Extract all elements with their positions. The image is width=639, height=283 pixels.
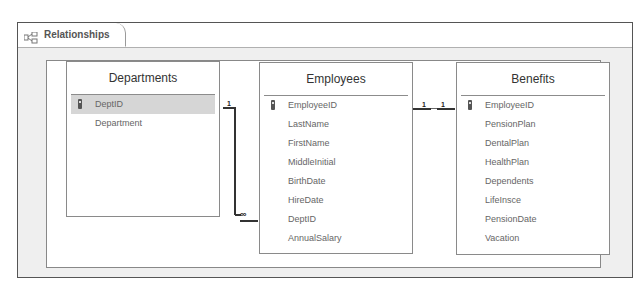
cardinality-one-label: 1 xyxy=(227,100,231,107)
diagram-area: Departments DeptID Department Employees … xyxy=(46,60,601,268)
table-benefits[interactable]: Benefits EmployeeID PensionPlan DentalPl… xyxy=(456,62,610,255)
relationships-canvas[interactable]: Departments DeptID Department Employees … xyxy=(18,48,632,277)
relationship-line xyxy=(234,107,236,215)
field-employeeid[interactable]: EmployeeID xyxy=(260,96,412,115)
field-label: PensionPlan xyxy=(485,119,536,129)
field-firstname[interactable]: FirstName xyxy=(260,134,412,153)
cardinality-one-label: 1 xyxy=(422,101,426,108)
field-dependents[interactable]: Dependents xyxy=(457,172,609,191)
field-label: Department xyxy=(95,118,142,128)
document-tab-bar: Relationships xyxy=(18,23,632,48)
field-label: HireDate xyxy=(288,195,324,205)
field-label: Vacation xyxy=(485,233,519,243)
relationship-line xyxy=(413,108,431,110)
relationships-icon xyxy=(24,29,38,41)
field-employeeid[interactable]: EmployeeID xyxy=(457,96,609,115)
table-employees[interactable]: Employees EmployeeID LastName FirstName … xyxy=(259,62,413,254)
field-label: EmployeeID xyxy=(288,100,337,110)
field-label: HealthPlan xyxy=(485,157,529,167)
field-label: DeptID xyxy=(288,214,316,224)
field-label: MiddleInitial xyxy=(288,157,336,167)
field-label: PensionDate xyxy=(485,214,537,224)
field-label: Dependents xyxy=(485,176,534,186)
table-departments[interactable]: Departments DeptID Department xyxy=(66,61,220,217)
field-label: BirthDate xyxy=(288,176,326,186)
field-hiredate[interactable]: HireDate xyxy=(260,191,412,210)
table-title[interactable]: Departments xyxy=(67,62,219,94)
field-pensiondate[interactable]: PensionDate xyxy=(457,210,609,229)
field-label: LifeInsce xyxy=(485,195,521,205)
field-vacation[interactable]: Vacation xyxy=(457,229,609,248)
cardinality-many-label: ∞ xyxy=(240,209,246,219)
primary-key-icon xyxy=(271,100,275,110)
table-title[interactable]: Benefits xyxy=(457,63,609,95)
field-label: FirstName xyxy=(288,138,330,148)
field-label: DeptID xyxy=(95,99,123,109)
field-middleinitial[interactable]: MiddleInitial xyxy=(260,153,412,172)
field-annualsalary[interactable]: AnnualSalary xyxy=(260,229,412,248)
field-deptid[interactable]: DeptID xyxy=(71,95,215,114)
field-lastname[interactable]: LastName xyxy=(260,115,412,134)
field-label: EmployeeID xyxy=(485,100,534,110)
primary-key-icon xyxy=(468,100,472,110)
tab-label: Relationships xyxy=(44,29,110,40)
field-label: LastName xyxy=(288,119,329,129)
field-department[interactable]: Department xyxy=(67,114,219,133)
field-deptid[interactable]: DeptID xyxy=(260,210,412,229)
primary-key-icon xyxy=(78,99,82,109)
relationship-line xyxy=(437,108,455,110)
field-lifeinsce[interactable]: LifeInsce xyxy=(457,191,609,210)
field-label: DentalPlan xyxy=(485,138,529,148)
field-pensionplan[interactable]: PensionPlan xyxy=(457,115,609,134)
relationship-line xyxy=(240,220,258,222)
tab-relationships[interactable]: Relationships xyxy=(18,23,126,47)
relationships-window: Relationships Departments DeptID Departm… xyxy=(17,22,633,278)
field-healthplan[interactable]: HealthPlan xyxy=(457,153,609,172)
cardinality-one-label: 1 xyxy=(441,101,445,108)
field-label: AnnualSalary xyxy=(288,233,342,243)
field-dentalplan[interactable]: DentalPlan xyxy=(457,134,609,153)
table-title[interactable]: Employees xyxy=(260,63,412,95)
field-birthdate[interactable]: BirthDate xyxy=(260,172,412,191)
